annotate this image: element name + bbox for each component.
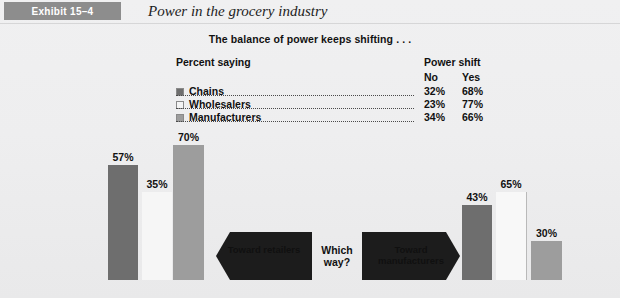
chart-subtitle: The balance of power keeps shifting . . … xyxy=(0,33,620,45)
bar-65-percent: 65% xyxy=(496,192,527,280)
bar-70-percent: 70% xyxy=(173,145,204,280)
column-header-yes: Yes xyxy=(462,71,480,83)
legend-value-yes-chains: 68% xyxy=(462,85,483,97)
bar-57-percent: 57% xyxy=(108,165,138,280)
legend-label-manufacturers: Manufacturers xyxy=(189,111,264,123)
bar-value-label: 30% xyxy=(536,227,557,239)
legend-table: Percent saying Power shift No Yes Chains… xyxy=(176,56,496,124)
exhibit-title: Power in the grocery industry xyxy=(148,2,327,20)
legend-column-headers: No Yes xyxy=(176,71,496,85)
bar-value-label: 70% xyxy=(178,131,199,143)
legend-value-no-wholesalers: 23% xyxy=(424,98,445,110)
legend-row-wholesalers: Wholesalers 23% 77% xyxy=(176,98,496,111)
bar-35-percent: 35% xyxy=(142,192,172,280)
legend-label-wholesalers: Wholesalers xyxy=(189,98,254,110)
bar-value-label: 35% xyxy=(146,178,167,190)
legend-label-chains: Chains xyxy=(189,85,227,97)
arrow-label-left: Toward retailers xyxy=(216,244,312,255)
bar-chart: 57%35%70% 43%65%30% Toward retailers Whi… xyxy=(0,128,620,298)
bar-value-label: 43% xyxy=(466,191,487,203)
legend-row-chains: Chains 32% 68% xyxy=(176,85,496,98)
which-way-label: Which way? xyxy=(307,244,367,268)
legend-row-manufacturers: Manufacturers 34% 66% xyxy=(176,111,496,124)
legend-value-no-manufacturers: 34% xyxy=(424,111,445,123)
bar-value-label: 57% xyxy=(112,151,133,163)
percent-saying-label: Percent saying xyxy=(176,56,251,68)
header-divider xyxy=(0,23,620,24)
legend-value-yes-manufacturers: 66% xyxy=(462,111,483,123)
legend-value-yes-wholesalers: 77% xyxy=(462,98,483,110)
power-shift-label: Power shift xyxy=(424,56,481,68)
bar-30-percent: 30% xyxy=(531,241,562,280)
exhibit-panel: Exhibit 15–4 Power in the grocery indust… xyxy=(0,0,620,298)
arrow-toward-manufacturers: Toward manufacturers xyxy=(362,232,460,280)
exhibit-number-badge: Exhibit 15–4 xyxy=(4,2,121,20)
arrow-toward-retailers: Toward retailers xyxy=(216,232,312,280)
column-header-no: No xyxy=(424,71,438,83)
bar-value-label: 65% xyxy=(500,178,521,190)
legend-header-row: Percent saying Power shift xyxy=(176,56,496,71)
legend-value-no-chains: 32% xyxy=(424,85,445,97)
bar-43-percent: 43% xyxy=(462,205,492,280)
arrow-label-right: Toward manufacturers xyxy=(362,244,460,266)
